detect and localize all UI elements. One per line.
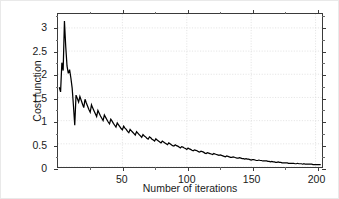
x-tick [123, 167, 124, 171]
y-minor-tick-right [322, 157, 325, 158]
y-minor-tick [56, 87, 59, 88]
y-tick [54, 169, 58, 170]
y-tick-right [322, 28, 326, 29]
x-tick-top [188, 10, 189, 14]
cost-function-curve [58, 14, 322, 167]
x-minor-tick-top [285, 12, 286, 15]
x-tick [188, 167, 189, 171]
y-tick [54, 146, 58, 147]
y-minor-tick [56, 110, 59, 111]
y-tick-label: 0 [1, 162, 47, 174]
y-tick-label: 0.5 [1, 139, 47, 151]
y-minor-tick-right [322, 134, 325, 135]
y-minor-tick [56, 40, 59, 41]
y-minor-tick-right [322, 16, 325, 17]
y-tick-right [322, 75, 326, 76]
x-tick [318, 167, 319, 171]
y-tick-label: 2 [1, 68, 47, 80]
x-minor-tick [220, 167, 221, 170]
figure-canvas: Cost function 00.511.522.53 50100150200 … [0, 0, 339, 199]
x-tick [253, 167, 254, 171]
y-tick [54, 99, 58, 100]
y-minor-tick [56, 134, 59, 135]
y-tick [54, 28, 58, 29]
y-tick-right [322, 99, 326, 100]
y-minor-tick [56, 157, 59, 158]
x-minor-tick-top [155, 12, 156, 15]
x-minor-tick [285, 167, 286, 170]
x-tick-top [318, 10, 319, 14]
x-minor-tick [155, 167, 156, 170]
y-tick-label: 1.5 [1, 92, 47, 104]
plot-area [57, 13, 323, 168]
x-tick-top [253, 10, 254, 14]
y-tick-right [322, 169, 326, 170]
x-minor-tick [90, 167, 91, 170]
y-minor-tick-right [322, 110, 325, 111]
y-tick-label: 2.5 [1, 45, 47, 57]
x-minor-tick-top [90, 12, 91, 15]
x-minor-tick-top [220, 12, 221, 15]
y-tick-label: 3 [1, 21, 47, 33]
y-minor-tick-right [322, 63, 325, 64]
y-minor-tick [56, 63, 59, 64]
y-minor-tick [56, 16, 59, 17]
x-axis-label: Number of iterations [57, 182, 323, 194]
y-tick-label: 1 [1, 115, 47, 127]
x-tick-top [123, 10, 124, 14]
y-minor-tick-right [322, 87, 325, 88]
y-minor-tick-right [322, 40, 325, 41]
y-tick [54, 75, 58, 76]
y-tick [54, 52, 58, 53]
y-tick-right [322, 52, 326, 53]
y-tick-right [322, 122, 326, 123]
y-tick-right [322, 146, 326, 147]
y-tick [54, 122, 58, 123]
series-line-cost-function [59, 21, 320, 165]
